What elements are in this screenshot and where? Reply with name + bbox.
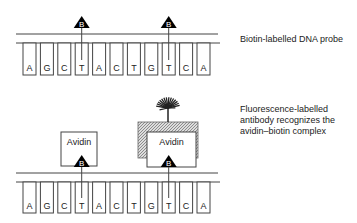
base-label: A xyxy=(26,63,32,73)
avidin-label: Avidin xyxy=(67,137,91,147)
base-label: A xyxy=(96,201,102,211)
probe-caption: Biotin-labelled DNA probe xyxy=(240,34,343,45)
base-label: A xyxy=(200,201,206,211)
base-label: G xyxy=(148,63,155,73)
detection-caption-line: avidin–biotin complex xyxy=(240,126,335,137)
base-label: T xyxy=(79,201,85,211)
base-label: T xyxy=(131,201,137,211)
biotin-label: B xyxy=(166,20,171,29)
base-label: C xyxy=(61,201,68,211)
biotin-label: B xyxy=(79,159,84,168)
base-label: G xyxy=(43,63,50,73)
base-label: C xyxy=(113,63,120,73)
base-label: A xyxy=(96,63,102,73)
detection-caption-line: Fluorescence-labelled xyxy=(240,104,335,115)
avidin-label: Avidin xyxy=(159,137,183,147)
base-label: G xyxy=(43,201,50,211)
detection-panel: AvidinAvidinAGCTACTGTCABB xyxy=(16,97,220,213)
base-label: T xyxy=(166,63,172,73)
base-label: A xyxy=(200,63,206,73)
base-label: C xyxy=(183,201,190,211)
base-label: T xyxy=(166,201,172,211)
base-label: C xyxy=(183,63,190,73)
detection-caption-line: antibody recognizes the xyxy=(240,115,335,126)
probe-panel: AGCTACTGTCABB xyxy=(16,16,220,75)
biotin-label: B xyxy=(79,20,84,29)
base-label: G xyxy=(148,201,155,211)
base-label: T xyxy=(131,63,137,73)
base-label: A xyxy=(26,201,32,211)
biotin-label: B xyxy=(166,159,171,168)
detection-caption: Fluorescence-labelled antibody recognize… xyxy=(240,104,335,137)
base-label: T xyxy=(79,63,85,73)
base-label: C xyxy=(61,63,68,73)
base-label: C xyxy=(113,201,120,211)
